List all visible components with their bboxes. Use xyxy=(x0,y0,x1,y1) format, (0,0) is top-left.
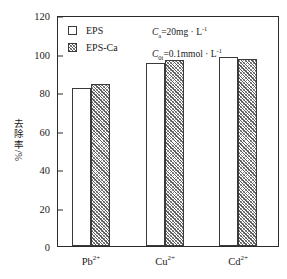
y-tick-label: 20 xyxy=(40,204,51,215)
legend-label: EPS xyxy=(86,26,103,36)
y-tick-label: 40 xyxy=(40,166,51,177)
x-axis-label-cu: Cu2+ xyxy=(155,255,175,267)
bar-eps-ca-cu xyxy=(165,60,184,246)
x-label-base: Pb xyxy=(82,256,93,267)
y-tick-label: 100 xyxy=(34,50,50,61)
x-label-base: Cd xyxy=(228,256,240,267)
y-tick-mark xyxy=(58,209,63,210)
legend-item-eps: EPS xyxy=(68,22,118,39)
annotation-exponent: -1 xyxy=(202,25,207,32)
y-tick-mark xyxy=(58,17,63,18)
x-label-sup: 2+ xyxy=(240,254,247,262)
legend-label: EPS-Ca xyxy=(86,43,118,53)
y-tick-mark xyxy=(58,55,63,56)
x-axis-label-pb: Pb2+ xyxy=(82,255,101,267)
y-tick-label: 0 xyxy=(45,243,50,254)
annotation-concentration-0i: C0i=0.1mmol · L-1 xyxy=(152,43,222,65)
bar-eps-ca-cd xyxy=(238,59,257,246)
legend: EPS EPS-Ca xyxy=(68,22,118,56)
bar-eps-ca-pb xyxy=(91,84,110,246)
y-tick-label: 60 xyxy=(40,127,51,138)
x-axis-label-cd: Cd2+ xyxy=(228,255,248,267)
annotation-exponent: -1 xyxy=(217,47,222,54)
bar-eps-pb xyxy=(72,88,91,246)
annotation-value: =20mg · L xyxy=(161,27,202,37)
annotation-value: =0.1mmol · L xyxy=(163,49,216,59)
annotation-concentration-a: Ca=20mg · L-1 xyxy=(152,21,222,43)
legend-swatch-hatched-square-icon xyxy=(68,43,77,52)
x-label-base: Cu xyxy=(155,256,167,267)
y-tick-mark xyxy=(58,132,63,133)
bar-chart-figure: 去除率/% 120 100 80 60 40 20 0 xyxy=(0,0,287,279)
y-axis-title: 去除率/% xyxy=(11,118,25,161)
bar-eps-cd xyxy=(219,57,238,246)
x-label-sup: 2+ xyxy=(93,254,100,262)
y-tick-mark xyxy=(58,94,63,95)
chart-annotations: Ca=20mg · L-1 C0i=0.1mmol · L-1 xyxy=(152,21,222,65)
x-label-sup: 2+ xyxy=(167,254,174,262)
legend-swatch-white-square-icon xyxy=(68,26,77,35)
y-tick-mark xyxy=(58,171,63,172)
y-tick-label: 80 xyxy=(40,89,51,100)
bar-eps-cu xyxy=(146,63,165,246)
y-tick-label: 120 xyxy=(34,12,50,23)
legend-item-eps-ca: EPS-Ca xyxy=(68,39,118,56)
